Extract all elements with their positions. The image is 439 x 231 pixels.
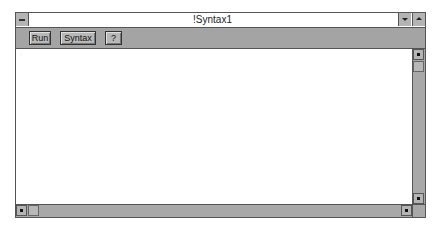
minimize-button[interactable] (398, 13, 411, 26)
maximize-button[interactable] (412, 13, 425, 26)
arrow-down-icon[interactable] (413, 193, 424, 204)
arrow-right-icon[interactable] (401, 205, 412, 216)
arrow-up-icon[interactable] (413, 49, 424, 60)
vertical-scroll-thumb[interactable] (413, 61, 424, 72)
text-cursor: · (20, 51, 22, 57)
size-grip (412, 204, 425, 217)
syntax-button[interactable]: Syntax (60, 31, 96, 45)
window-title: !Syntax1 (30, 13, 395, 27)
syntax-window: !Syntax1 Run Syntax ? · (15, 12, 426, 218)
triangle-down-icon (402, 18, 408, 21)
arrow-left-icon[interactable] (16, 205, 27, 216)
horizontal-scrollbar[interactable] (16, 204, 412, 217)
horizontal-scroll-thumb[interactable] (28, 205, 39, 216)
title-bar[interactable]: !Syntax1 (16, 13, 425, 28)
triangle-up-icon (416, 17, 422, 20)
run-button[interactable]: Run (29, 31, 51, 45)
system-menu-icon[interactable] (16, 13, 29, 26)
toolbar: Run Syntax ? (16, 28, 425, 49)
vertical-scrollbar[interactable] (412, 49, 425, 204)
help-button[interactable]: ? (105, 31, 122, 45)
syntax-editor[interactable]: · (16, 49, 412, 204)
